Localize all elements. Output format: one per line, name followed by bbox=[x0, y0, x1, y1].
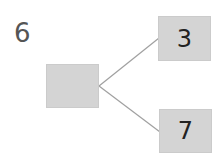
whole-box-empty[interactable] bbox=[46, 64, 99, 108]
part-box-top: 3 bbox=[158, 16, 211, 61]
number-bond-diagram: 6 3 7 bbox=[0, 0, 224, 163]
connector-bottom bbox=[99, 86, 160, 132]
part-box-bottom: 7 bbox=[159, 109, 212, 153]
connector-top bbox=[99, 38, 159, 86]
